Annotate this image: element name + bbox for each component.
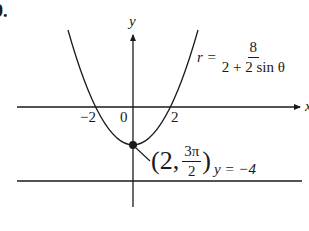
problem-number: 9.: [0, 2, 8, 20]
point-label: (2, 3π 2 ): [151, 143, 211, 179]
origin-label: 0: [120, 110, 128, 125]
vertex-point: [129, 141, 137, 149]
point-leader-line: [136, 148, 150, 161]
parabola-diagram: [0, 0, 309, 231]
x-tick-2: 2: [171, 110, 179, 125]
point-open-paren: (2,: [151, 148, 179, 174]
point-fraction: 3π 2: [182, 143, 201, 179]
y-axis-label: y: [129, 14, 136, 29]
point-denominator: 2: [188, 162, 196, 180]
curve-equation: r = 8 2 + 2 sin θ: [197, 39, 285, 75]
x-axis-label: x: [305, 99, 309, 114]
x-tick-neg2: −2: [80, 110, 96, 125]
directrix-label: y = −4: [214, 162, 256, 177]
point-close-paren: ): [202, 148, 211, 174]
curve-numerator: 8: [248, 39, 260, 58]
curve-denominator: 2 + 2 sin θ: [222, 58, 285, 76]
curve-lhs: r =: [197, 50, 217, 65]
point-numerator: 3π: [182, 143, 201, 162]
curve-fraction: 8 2 + 2 sin θ: [222, 39, 285, 75]
